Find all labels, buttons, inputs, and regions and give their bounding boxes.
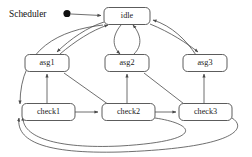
node-check3[interactable]: check3 — [179, 104, 232, 121]
edge-layer — [19, 14, 238, 152]
edge-start-to-idle — [71, 14, 101, 16]
node-asg1-label: asg1 — [39, 58, 54, 67]
node-check3-label: check3 — [194, 107, 217, 116]
edge-check2-to-check1 — [23, 117, 186, 146]
node-check1-label: check1 — [37, 107, 60, 116]
node-idle[interactable]: idle — [104, 8, 150, 25]
scheduler-state-diagram: Scheduler idle asg1 asg2 asg3 check1 che… — [0, 0, 252, 157]
node-asg2-label: asg2 — [119, 58, 134, 67]
initial-state-dot — [63, 10, 70, 17]
edge-asg1-to-check2 — [64, 73, 112, 107]
node-check2-label: check2 — [117, 107, 140, 116]
edge-asg3-to-idle — [153, 20, 196, 55]
node-idle-label: idle — [121, 11, 134, 20]
diagram-caption: Scheduler — [9, 9, 47, 19]
diagram-canvas: Scheduler idle asg1 asg2 asg3 check1 che… — [0, 0, 252, 157]
node-asg2[interactable]: asg2 — [105, 55, 149, 72]
edge-idle-to-asg1 — [57, 22, 104, 52]
node-asg1[interactable]: asg1 — [25, 55, 69, 72]
edge-idle-to-asg2 — [114, 25, 121, 54]
edge-asg2-to-idle — [133, 25, 140, 54]
node-check1[interactable]: check1 — [22, 104, 75, 121]
edge-asg1-to-idle — [60, 25, 108, 54]
node-check2[interactable]: check2 — [102, 104, 155, 121]
node-asg3[interactable]: asg3 — [183, 55, 227, 72]
node-asg3-label: asg3 — [197, 58, 212, 67]
edge-check3-to-check1 — [19, 118, 238, 152]
edge-asg2-to-check3 — [144, 73, 188, 107]
